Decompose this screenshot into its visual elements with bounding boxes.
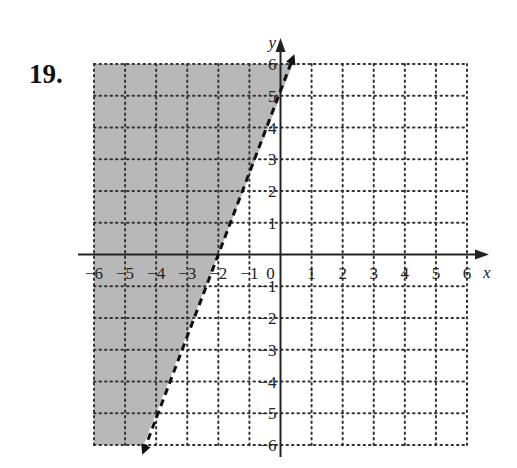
inequality-graph: −6−5−4−3−2−10123456−6−5−4−3−2−1123456xy	[0, 0, 517, 468]
x-tick-label: −3	[178, 264, 196, 283]
y-tick-label: −4	[258, 373, 277, 392]
y-tick-label: −3	[258, 341, 276, 360]
y-tick-label: 5	[268, 87, 277, 106]
x-tick-label: −5	[116, 264, 134, 283]
y-tick-label: −1	[258, 277, 276, 296]
y-tick-label: −2	[258, 309, 276, 328]
x-tick-label: −2	[209, 264, 227, 283]
y-tick-label: 2	[268, 182, 277, 201]
x-axis-arrow-icon	[475, 250, 489, 260]
y-tick-label: −6	[258, 436, 276, 455]
y-tick-label: 3	[268, 150, 277, 169]
x-tick-label: 4	[401, 264, 410, 283]
x-tick-label: 6	[463, 264, 472, 283]
y-tick-label: −5	[258, 404, 276, 423]
y-axis-label: y	[267, 33, 277, 52]
x-tick-label: −4	[147, 264, 166, 283]
x-axis-label: x	[482, 263, 491, 282]
x-tick-label: 3	[370, 264, 379, 283]
y-axis-arrow-icon	[276, 38, 286, 52]
x-tick-label: 1	[307, 264, 316, 283]
x-tick-label: −6	[85, 264, 103, 283]
x-tick-label: −1	[240, 264, 258, 283]
x-tick-label: 2	[338, 264, 347, 283]
y-tick-label: 4	[268, 119, 277, 138]
y-tick-label: 1	[268, 214, 277, 233]
y-tick-label: 6	[268, 55, 277, 74]
x-tick-label: 5	[432, 264, 441, 283]
